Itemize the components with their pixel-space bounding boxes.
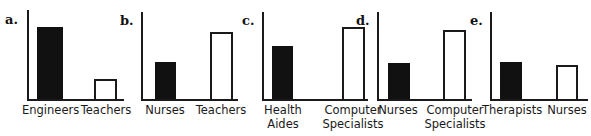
x-tick-label: Therapists [482,103,542,117]
chart-panel-e: e.TherapistsNurses [0,0,591,136]
bar-chart-figure: a.EngineersTeachersb.NursesTeachersc.Hea… [0,0,591,136]
bar-filled [500,62,522,99]
x-tick-label: Nurses [541,103,591,117]
panel-letter: e. [470,14,483,27]
bar-open [556,65,578,99]
y-axis-line [490,12,492,101]
x-axis-line [490,99,588,101]
